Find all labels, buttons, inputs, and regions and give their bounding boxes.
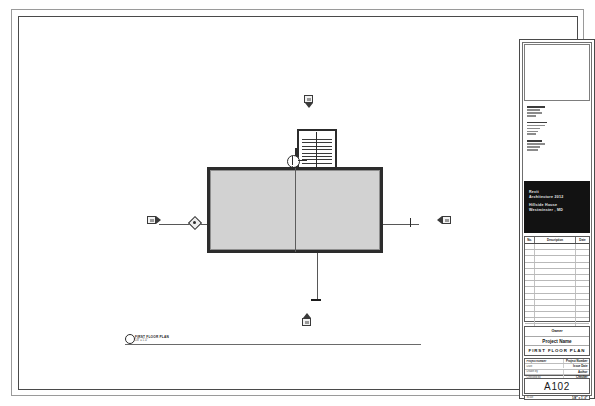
- stair-treads: [302, 139, 332, 167]
- stair-tread: [302, 146, 332, 147]
- revision-cell-no: [525, 269, 535, 274]
- revision-cell-date: [576, 287, 589, 292]
- project-data-value: Issue Date: [563, 364, 590, 368]
- revision-cell-no: [525, 318, 535, 323]
- note-line: [527, 125, 545, 127]
- revision-cell-no: [525, 250, 535, 255]
- revision-header-date: Date: [576, 237, 589, 243]
- revision-cell-description: [535, 294, 576, 299]
- revision-cell-date: [576, 294, 589, 299]
- revision-cell-date: [576, 312, 589, 317]
- view-title-bubble-icon: [125, 334, 135, 344]
- note-line: [527, 109, 540, 111]
- revision-cell-description: [535, 281, 576, 286]
- revision-schedule[interactable]: No. Description Date: [524, 236, 590, 322]
- drawing-area[interactable]: FIRST FLOOR PLAN 1/8" = 1'-0": [39, 35, 517, 403]
- stair-callout[interactable]: [287, 155, 298, 166]
- revision-cell-date: [576, 300, 589, 305]
- revision-cell-no: [525, 256, 535, 261]
- title-block[interactable]: Revit Architecture 2012 Hillside House W…: [519, 39, 595, 399]
- elevation-marker-body: [147, 216, 156, 224]
- elevation-arrow-down-icon: [305, 103, 313, 108]
- note-line: [527, 149, 538, 151]
- stair-tread: [302, 156, 332, 157]
- revision-cell-description: [535, 275, 576, 280]
- elevation-arrow-right-icon: [156, 216, 161, 224]
- callout-tail-icon: [298, 160, 307, 161]
- view-title-scale: 1/8" = 1'-0": [135, 339, 148, 342]
- revision-cell-description: [535, 287, 576, 292]
- revision-cell-date: [576, 318, 589, 323]
- revision-cell-date: [576, 244, 589, 249]
- project-data-key: Project number: [525, 360, 563, 363]
- revision-cell-no: [525, 300, 535, 305]
- note-group: [527, 106, 588, 117]
- project-identity-block[interactable]: Owner Project Name FIRST FLOOR PLAN: [524, 326, 590, 356]
- revision-cell-no: [525, 294, 535, 299]
- note-line: [527, 131, 538, 133]
- note-line: [527, 143, 545, 145]
- section-cut-line-vertical[interactable]: [317, 253, 318, 300]
- elevation-marker-body: [442, 216, 451, 224]
- scale-block[interactable]: Scale 1/8" = 1'-0": [524, 395, 590, 400]
- note-line: [527, 122, 547, 124]
- sheet-title: FIRST FLOOR PLAN: [525, 346, 589, 355]
- stair-tread: [302, 142, 332, 143]
- revision-cell-description: [535, 256, 576, 261]
- note-group: [527, 122, 588, 135]
- scale-label: Scale: [525, 396, 572, 399]
- revision-cell-description: [535, 263, 576, 268]
- section-cut-tick-east: [410, 218, 411, 227]
- elevation-marker-body: [304, 95, 313, 103]
- revision-header-no: No.: [525, 237, 535, 243]
- section-head-west[interactable]: [189, 217, 202, 230]
- elevation-arrow-up-icon: [303, 313, 311, 318]
- stair-tread: [302, 153, 332, 154]
- project-data-key: Drawn by: [525, 370, 563, 373]
- revision-cell-no: [525, 287, 535, 292]
- revision-cell-no: [525, 281, 535, 286]
- revision-cell-date: [576, 269, 589, 274]
- sheet-number-block[interactable]: A102: [524, 378, 590, 394]
- owner-label: Owner: [525, 327, 589, 337]
- revision-header-row: No. Description Date: [525, 237, 589, 244]
- revision-cell-date: [576, 275, 589, 280]
- note-line: [527, 115, 536, 117]
- revision-cell-date: [576, 263, 589, 268]
- project-data-value: Project Number: [563, 359, 590, 363]
- project-name: Project Name: [525, 337, 589, 347]
- revision-cell-no: [525, 275, 535, 280]
- title-block-logo-area[interactable]: [524, 44, 590, 101]
- stair-stringer: [316, 132, 317, 168]
- elevation-marker-body: [302, 318, 311, 326]
- note-line: [527, 106, 545, 108]
- revision-cell-description: [535, 244, 576, 249]
- elevation-arrow-left-icon: [437, 216, 442, 224]
- sheet-border-inner: FIRST FLOOR PLAN 1/8" = 1'-0": [18, 16, 578, 390]
- revision-header-description: Description: [535, 237, 576, 243]
- revision-cell-description: [535, 300, 576, 305]
- note-line: [527, 133, 536, 135]
- revision-cell-date: [576, 281, 589, 286]
- project-data-block[interactable]: Project numberProject NumberDateIssue Da…: [524, 358, 590, 376]
- title-block-consultant-notes: [524, 103, 590, 179]
- revision-cell-date: [576, 256, 589, 261]
- stair-tread: [302, 139, 332, 140]
- revision-cell-no: [525, 306, 535, 311]
- branding-panel: Revit Architecture 2012 Hillside House W…: [524, 181, 590, 233]
- note-group: [527, 140, 588, 151]
- section-head-dot-icon: [193, 221, 196, 224]
- project-data-value: Author: [563, 370, 590, 374]
- scale-value: 1/8" = 1'-0": [572, 396, 589, 400]
- interior-partition-wall[interactable]: [295, 168, 296, 252]
- stair-tread: [302, 149, 332, 150]
- revision-cell-date: [576, 250, 589, 255]
- revision-cell-description: [535, 306, 576, 311]
- revision-body: [525, 244, 589, 331]
- revision-cell-no: [525, 312, 535, 317]
- revision-cell-description: [535, 312, 576, 317]
- note-line: [527, 112, 542, 114]
- section-cut-tick-south: [311, 299, 321, 301]
- note-line: [527, 128, 540, 130]
